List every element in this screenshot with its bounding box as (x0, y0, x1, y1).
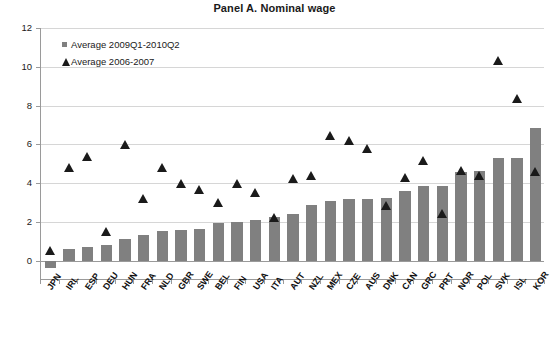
marker-irl (64, 163, 74, 172)
y-axis-label: 2 (2, 217, 32, 227)
x-axis-tickmark (339, 280, 340, 284)
x-axis-tickmark (451, 280, 452, 284)
marker-aus (362, 144, 372, 153)
y-axis-label: 8 (2, 101, 32, 111)
bar-nzl (306, 205, 318, 260)
bar-gbr (175, 230, 187, 261)
bar-prt (437, 186, 449, 261)
bar-kor (530, 128, 542, 261)
x-axis-tickmark (40, 280, 41, 284)
bar-esp (82, 247, 94, 261)
x-axis-tickmark (59, 280, 60, 284)
marker-hun (120, 140, 130, 149)
x-axis-tickmark (413, 280, 414, 284)
bar-irl (63, 249, 75, 261)
legend-label-bar-series: Average 2009Q1-2010Q2 (71, 39, 180, 50)
marker-nzl (306, 171, 316, 180)
marker-mex (325, 131, 335, 140)
bar-jpn (45, 261, 57, 269)
marker-pol (474, 171, 484, 180)
marker-can (400, 173, 410, 182)
marker-gbr (176, 179, 186, 188)
marker-bel (213, 198, 223, 207)
marker-usa (250, 188, 260, 197)
bar-pol (474, 171, 486, 260)
x-axis-tickmark (432, 280, 433, 284)
marker-cze (344, 136, 354, 145)
marker-dnk (381, 201, 391, 210)
grid-line (41, 28, 544, 29)
marker-grc (418, 156, 428, 165)
x-axis-tickmark (171, 280, 172, 284)
chart-title: Panel A. Nominal wage (0, 2, 549, 14)
grid-line (41, 183, 544, 184)
x-axis-tickmark (152, 280, 153, 284)
y-axis-tickmark (36, 261, 40, 262)
marker-kor (530, 167, 540, 176)
bar-nld (157, 231, 169, 261)
marker-ita (269, 213, 279, 222)
x-axis-tickmark (245, 280, 246, 284)
legend-triangle-marker-icon (62, 58, 70, 66)
marker-fra (138, 194, 148, 203)
marker-svk (493, 56, 503, 65)
x-axis-tickmark (525, 280, 526, 284)
bar-fra (138, 235, 150, 260)
bar-grc (418, 186, 430, 261)
chart-legend: Average 2009Q1-2010Q2 Average 2006-2007 (62, 38, 180, 72)
x-axis-tickmark (189, 280, 190, 284)
y-axis-tickmark (36, 183, 40, 184)
bar-mex (325, 201, 337, 261)
legend-square-marker-icon (62, 42, 67, 47)
x-axis-tickmark (301, 280, 302, 284)
bar-ita (269, 217, 281, 261)
bar-nor (455, 172, 467, 260)
x-axis-tickmark (488, 280, 489, 284)
y-axis-tickmark (36, 144, 40, 145)
legend-item-triangle-series: Average 2006-2007 (62, 55, 180, 68)
legend-item-bar-series: Average 2009Q1-2010Q2 (62, 38, 180, 51)
marker-swe (194, 185, 204, 194)
bar-bel (213, 223, 225, 261)
y-axis-tickmark (36, 28, 40, 29)
x-axis-tickmark (376, 280, 377, 284)
marker-aut (288, 174, 298, 183)
x-axis-tickmark (77, 280, 78, 284)
x-axis-tickmark (283, 280, 284, 284)
marker-prt (437, 209, 447, 218)
bar-fin (231, 222, 243, 261)
bar-isl (511, 158, 523, 261)
grid-line (41, 144, 544, 145)
marker-deu (101, 227, 111, 236)
y-axis-label: 6 (2, 139, 32, 149)
grid-line (41, 106, 544, 107)
marker-fin (232, 179, 242, 188)
bar-swe (194, 229, 206, 261)
x-axis-tickmark (507, 280, 508, 284)
legend-label-triangle-series: Average 2006-2007 (71, 56, 154, 67)
bar-usa (250, 220, 262, 261)
x-axis-tickmark (395, 280, 396, 284)
bar-hun (119, 239, 131, 260)
marker-esp (82, 152, 92, 161)
x-axis-tickmark (264, 280, 265, 284)
y-axis-tickmark (36, 67, 40, 68)
y-axis-tickmark (36, 106, 40, 107)
x-axis-tickmark (357, 280, 358, 284)
x-axis-tickmark (96, 280, 97, 284)
y-axis-label: 10 (2, 62, 32, 72)
y-axis-label: 12 (2, 23, 32, 33)
marker-nld (157, 163, 167, 172)
marker-isl (512, 94, 522, 103)
bar-aut (287, 214, 299, 261)
y-axis-tickmark (36, 222, 40, 223)
x-axis-tickmark (208, 280, 209, 284)
x-axis-tickmark (544, 280, 545, 284)
marker-jpn (45, 246, 55, 255)
x-axis-tickmark (320, 280, 321, 284)
zero-line (41, 261, 544, 262)
bar-aus (362, 199, 374, 261)
bar-can (399, 191, 411, 261)
bar-cze (343, 199, 355, 261)
marker-nor (456, 166, 466, 175)
